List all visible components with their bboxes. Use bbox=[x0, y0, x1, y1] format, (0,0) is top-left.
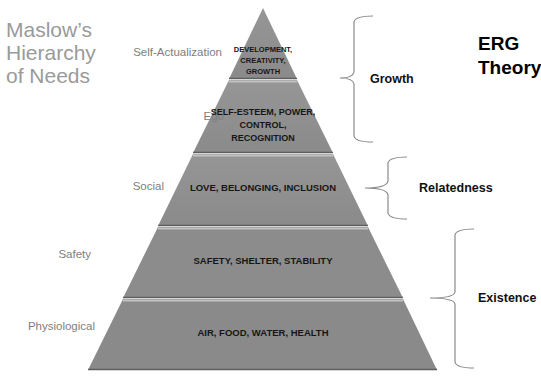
tier-text-social: LOVE, BELONGING, INCLUSION bbox=[173, 182, 353, 194]
maslow-title: Maslow’s Hierarchy of Needs bbox=[6, 18, 96, 87]
erg-label-relatedness: Relatedness bbox=[419, 181, 493, 195]
maslow-title-line2: Hierarchy bbox=[6, 41, 96, 64]
level-label-social: Social bbox=[133, 180, 164, 192]
existence-brace bbox=[430, 229, 474, 368]
erg-title: ERG Theory bbox=[478, 32, 541, 80]
tier-text-safety: SAFETY, SHELTER, STABILITY bbox=[173, 255, 353, 267]
relatedness-brace bbox=[365, 157, 407, 219]
tier-text-physiological: AIR, FOOD, WATER, HEALTH bbox=[173, 327, 353, 339]
maslow-title-line3: of Needs bbox=[6, 64, 96, 87]
tier-text-ego: SELF-ESTEEM, POWER, CONTROL, RECOGNITION bbox=[203, 106, 323, 145]
erg-title-line1: ERG bbox=[478, 32, 541, 56]
level-label-self-actualization: Self-Actualization bbox=[133, 46, 222, 58]
level-label-safety: Safety bbox=[58, 248, 91, 260]
maslow-title-line1: Maslow’s bbox=[6, 18, 96, 41]
erg-label-existence: Existence bbox=[478, 291, 536, 305]
erg-label-growth: Growth bbox=[370, 72, 414, 86]
tier-text-self-actualization: DEVELOPMENT, CREATIVITY, GROWTH bbox=[223, 44, 303, 77]
growth-brace bbox=[340, 16, 373, 142]
erg-title-line2: Theory bbox=[478, 56, 541, 80]
level-label-physiological: Physiological bbox=[28, 320, 95, 332]
